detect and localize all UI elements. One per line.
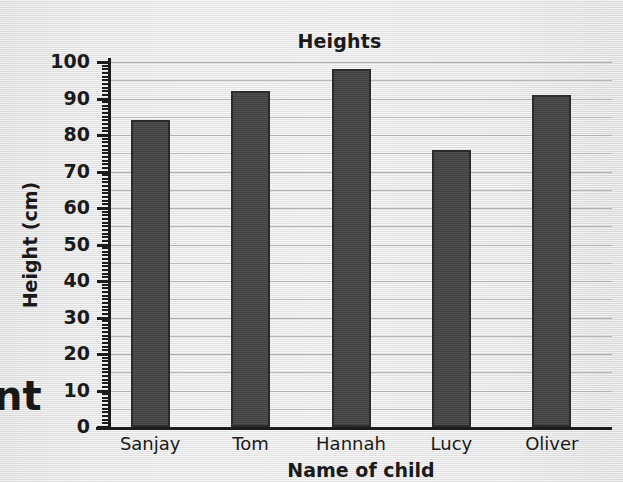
y-axis-tick-labels: 1009080706050403020100 xyxy=(0,0,623,482)
x-axis-tick-label: Oliver xyxy=(492,434,612,454)
y-axis-tick-label: 90 xyxy=(44,89,90,108)
y-axis-tick-label: 70 xyxy=(44,162,90,181)
y-axis-tick-label: 30 xyxy=(44,308,90,327)
y-axis-tick-label: 80 xyxy=(44,125,90,144)
bar-chart-figure: nt Heights Height (cm) 10090807060504030… xyxy=(0,0,623,482)
y-axis-tick-label: 50 xyxy=(44,235,90,254)
y-axis-tick-label: 100 xyxy=(44,52,90,71)
y-axis-tick-label: 10 xyxy=(44,381,90,400)
y-axis-tick-label: 20 xyxy=(44,344,90,363)
y-axis-tick-label: 40 xyxy=(44,271,90,290)
y-axis-tick-label: 60 xyxy=(44,198,90,217)
x-axis-title: Name of child xyxy=(110,459,612,481)
y-axis-tick-label: 0 xyxy=(44,417,90,436)
